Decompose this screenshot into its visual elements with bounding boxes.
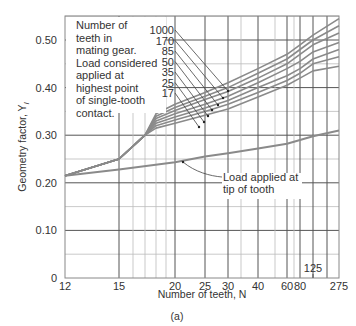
curve-tip — [65, 130, 339, 175]
y-tick-label: 0.50 — [36, 34, 57, 46]
x-tick-label: 40 — [252, 280, 264, 292]
note-line: mating gear. — [76, 44, 137, 56]
tip-note-line: tip of tooth — [223, 183, 274, 195]
x-tick-label: 60 — [281, 280, 293, 292]
note-line: applied at — [76, 69, 124, 81]
annotation-125: 125 — [304, 262, 322, 274]
y-tick-label: 0 — [51, 272, 57, 284]
note-line: contact. — [76, 107, 115, 119]
y-tick-label: 0.40 — [36, 82, 57, 94]
note-line: highest point — [76, 82, 138, 94]
tip-note-line: Load applied at — [223, 171, 298, 183]
note-line: Number of — [76, 19, 128, 31]
y-tick-label: 0.30 — [36, 129, 57, 141]
note-line: Load considered — [76, 57, 157, 69]
y-tick-label: 0.20 — [36, 177, 57, 189]
leader-lines — [175, 30, 229, 128]
y-axis-label: Geometry factor, YI — [16, 101, 31, 191]
geometry-factor-chart: 00.100.200.300.400.50 121520253040608027… — [0, 0, 356, 326]
note-line: teeth in — [76, 32, 112, 44]
y-tick-label: 0.10 — [36, 224, 57, 236]
tip-of-tooth-annotation: Load applied attip of tooth — [182, 161, 302, 199]
x-tick-label: 80 — [294, 280, 306, 292]
series-label-17: 17 — [162, 87, 174, 99]
note-line: of single-tooth — [76, 94, 145, 106]
figure-caption: (a) — [171, 310, 184, 322]
x-tick-label: 12 — [59, 280, 71, 292]
y-tick-labels: 00.100.200.300.400.50 — [36, 34, 57, 284]
x-tick-label: 15 — [113, 280, 125, 292]
x-axis-label: Number of teeth, N — [158, 288, 247, 300]
x-tick-label: 275 — [330, 280, 348, 292]
